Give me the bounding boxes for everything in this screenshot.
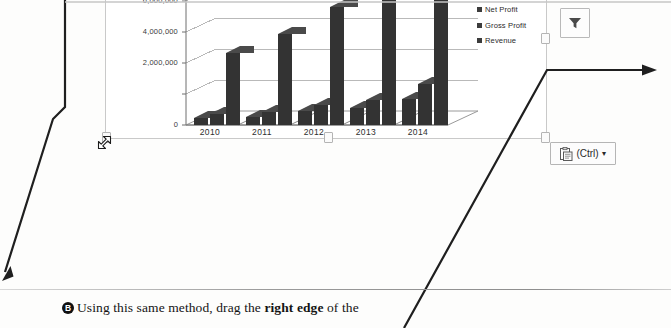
caption-emphasis: right edge [264, 300, 323, 315]
bar-group-2011 [246, 27, 306, 125]
x-tick-label: 2011 [236, 127, 288, 137]
resize-handle-bottom-right[interactable] [541, 132, 550, 143]
caption-text-after: of the [324, 300, 359, 315]
arrow-head-right [642, 65, 657, 76]
paste-options-label: (Ctrl) [576, 148, 598, 159]
paste-options-button[interactable]: (Ctrl) ▾ [550, 142, 616, 165]
chart-object-frame[interactable]: 8,000,000 6,000,000 4,000,000 2,000,000 … [105, 0, 547, 139]
chevron-down-icon[interactable]: ▾ [602, 150, 606, 158]
legend-swatch-icon [477, 7, 482, 12]
resize-handle-bottom-center[interactable] [324, 132, 333, 143]
bar-group-2014 [402, 0, 462, 125]
legend-label: Revenue [485, 36, 516, 45]
clipboard-icon [560, 147, 573, 161]
x-tick-label: 2013 [340, 127, 392, 137]
funnel-icon [567, 15, 583, 31]
chart-filter-button[interactable] [560, 8, 590, 38]
legend-label: Net Profit [485, 5, 518, 14]
y-tick-label: 0 [106, 120, 178, 129]
x-tick-label: 2014 [392, 127, 444, 137]
diagonal-resize-cursor [94, 132, 116, 154]
chart-legend[interactable]: Net Profit Gross Profit Revenue [477, 5, 547, 52]
bar-group-2013 [350, 0, 410, 125]
x-tick-label: 2010 [184, 127, 236, 137]
legend-item-gross-profit[interactable]: Gross Profit [477, 21, 547, 30]
caption-step-marker: B [62, 302, 74, 314]
caption-text-before: Using this same method, drag the [77, 300, 264, 315]
legend-item-revenue[interactable]: Revenue [477, 36, 547, 45]
caption-text: BUsing this same method, drag the right … [62, 300, 482, 316]
y-tick-label: 6,000,000 [106, 0, 178, 5]
legend-swatch-icon [477, 38, 482, 43]
legend-item-net-profit[interactable]: Net Profit [477, 5, 547, 14]
legend-label: Gross Profit [485, 21, 526, 30]
arrow-head-left [2, 266, 14, 281]
y-tick-label: 2,000,000 [106, 58, 178, 67]
resize-handle-right-middle[interactable] [541, 33, 550, 44]
page-root: 8,000,000 6,000,000 4,000,000 2,000,000 … [0, 0, 671, 328]
y-tick-label: 4,000,000 [106, 27, 178, 36]
bar-group-2012 [298, 0, 358, 125]
chart-plot-area[interactable]: 8,000,000 6,000,000 4,000,000 2,000,000 … [106, 0, 548, 140]
page-separator-rule [0, 289, 671, 290]
legend-swatch-icon [477, 23, 482, 28]
